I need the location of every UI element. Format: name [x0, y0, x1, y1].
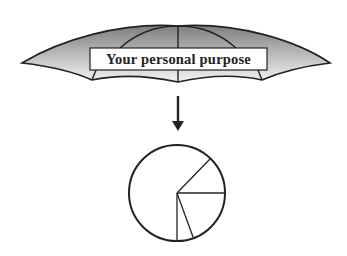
arrow-down-icon	[172, 96, 184, 131]
pie-chart-icon	[129, 145, 225, 241]
diagram-canvas	[0, 0, 347, 256]
umbrella-label: Your personal purpose	[91, 48, 266, 70]
